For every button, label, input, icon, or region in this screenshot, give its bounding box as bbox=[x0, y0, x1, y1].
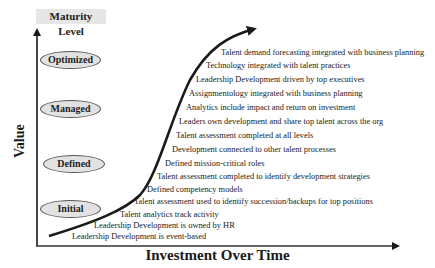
statement: Technology integrated with talent practi… bbox=[206, 61, 351, 71]
statement: Leadership Development is event-based bbox=[72, 232, 206, 242]
statement: Leadership Development is owned by HR bbox=[94, 221, 235, 231]
statement: Talent demand forecasting integrated wit… bbox=[221, 48, 424, 58]
statement: Defined mission-critical roles bbox=[165, 159, 265, 169]
statement: Assignmentology integrated with business… bbox=[189, 89, 363, 99]
y-axis-label: Value bbox=[12, 124, 28, 158]
statement: Analytics include impact and return on i… bbox=[186, 103, 355, 113]
statement: Talent assessment completed to identify … bbox=[157, 172, 370, 182]
x-axis-label: Investment Over Time bbox=[0, 247, 435, 264]
level-initial: Initial bbox=[40, 200, 101, 218]
statement: Talent analytics track activity bbox=[120, 210, 219, 220]
level-defined: Defined bbox=[43, 155, 105, 173]
level-optimized: Optimized bbox=[40, 51, 101, 69]
statement: Leaders own development and share top ta… bbox=[179, 117, 383, 127]
maturity-level-header: Maturity Level bbox=[36, 9, 106, 24]
statement: Talent assessment completed at all level… bbox=[176, 131, 313, 141]
statement: Talent assessment used to identify succe… bbox=[134, 197, 373, 207]
statement: Leadership Development driven by top exe… bbox=[196, 75, 365, 85]
statement: Development connected to other talent pr… bbox=[172, 145, 336, 155]
level-managed: Managed bbox=[40, 100, 101, 118]
statement: Defined competency models bbox=[147, 185, 243, 195]
